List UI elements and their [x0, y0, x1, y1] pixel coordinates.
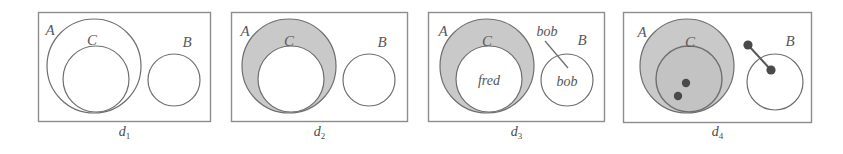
- panel-d4-set-C-circle: [656, 46, 722, 112]
- panel-d4-set-B-label: B: [785, 33, 794, 49]
- panel-d4-set-A-label: A: [636, 24, 647, 40]
- panel-d4-dot-inside-B: [766, 65, 775, 74]
- panel-d4-set-C-label: C: [685, 34, 696, 50]
- panel-d4-dot-outside-B: [743, 40, 752, 49]
- panel-d4-caption: d4: [623, 124, 812, 140]
- panel-d4-dot-in-C-2: [674, 92, 682, 100]
- panel-d4-graphic: A C B: [0, 0, 843, 126]
- panel-d4-caption-base: d: [712, 124, 719, 139]
- panel-d4-set-B-circle: [747, 54, 803, 110]
- panel-d4-dot-in-C-1: [682, 79, 690, 87]
- panel-d4: A C B d4: [0, 0, 843, 154]
- panel-d4-caption-sub: 4: [719, 131, 724, 141]
- figure-canvas: A C B d1 A C B d2 A C: [0, 0, 843, 154]
